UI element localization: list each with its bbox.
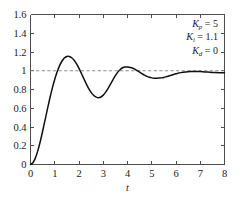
gain-value-kd: 0: [213, 45, 218, 56]
x-axis-title: t: [126, 182, 130, 193]
y-axis-tick-labels: 00.20.40.60.811.21.41.6: [13, 9, 27, 170]
gain-value-kp: 5: [213, 18, 218, 29]
gain-symbol-kd: K: [192, 45, 199, 56]
x-tick-label: 8: [222, 168, 227, 179]
y-tick-label: 0.2: [13, 140, 26, 151]
x-tick-label: 4: [125, 168, 131, 179]
x-tick-label: 5: [149, 168, 154, 179]
x-tick-label: 1: [52, 168, 57, 179]
x-axis-tick-labels: 012345678: [28, 168, 227, 179]
y-tick-label: 0.4: [13, 122, 27, 133]
gain-symbol-kp: K: [192, 18, 199, 29]
gain-equals-kd: =: [205, 45, 211, 56]
y-tick-label: 1.2: [13, 47, 26, 58]
gain-subscript-kd: d: [199, 50, 203, 58]
y-tick-label: 0.6: [13, 103, 26, 114]
gain-value-ki: 1.1: [206, 31, 219, 42]
gain-symbol-ki: K: [186, 31, 193, 42]
y-tick-label: 1.4: [13, 28, 27, 39]
chart-figure: 00.20.40.60.811.21.41.6 012345678 t Kp =…: [0, 0, 241, 198]
gain-subscript-kp: p: [199, 23, 203, 31]
y-tick-label: 1: [21, 65, 26, 76]
gain-row-ki: Ki = 1.1: [186, 31, 218, 44]
x-tick-label: 3: [101, 168, 106, 179]
y-tick-label: 0: [21, 159, 26, 170]
y-tick-label: 0.8: [13, 84, 26, 95]
y-tick-label: 1.6: [13, 9, 26, 20]
x-tick-label: 0: [28, 168, 33, 179]
gain-row-kd: Kd = 0: [186, 45, 218, 58]
x-tick-label: 2: [76, 168, 81, 179]
x-tick-label: 6: [173, 168, 178, 179]
gain-equals-ki: =: [197, 31, 203, 42]
gain-subscript-ki: i: [193, 36, 195, 44]
step-response-curve: [31, 56, 225, 164]
x-tick-label: 7: [198, 168, 203, 179]
gain-annotation: Kp = 5 Ki = 1.1 Kd = 0: [186, 18, 218, 58]
gain-equals-kp: =: [205, 18, 211, 29]
gain-row-kp: Kp = 5: [186, 18, 218, 31]
